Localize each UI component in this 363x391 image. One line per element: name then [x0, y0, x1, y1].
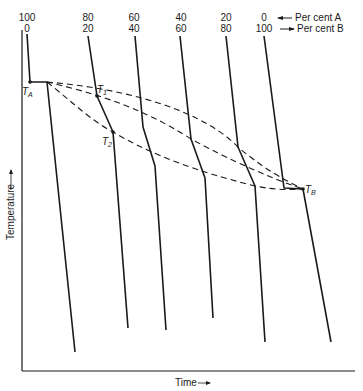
legend-per-cent-b: Per cent B — [297, 23, 344, 34]
comp-a-5: 0 — [261, 12, 267, 23]
cooling-curve-60a — [135, 36, 166, 330]
comp-a-1: 80 — [82, 12, 94, 23]
cooling-curve-20a — [226, 36, 265, 342]
comp-a-4: 20 — [220, 12, 232, 23]
cooling-curve-40a — [180, 36, 213, 318]
comp-b-0: 0 — [24, 23, 30, 34]
x-axis-label-group: Time — [175, 377, 211, 388]
solidus-curve — [47, 82, 303, 190]
label-tb: TB — [305, 184, 316, 196]
liquidus-upper-curve — [47, 82, 303, 189]
cooling-curve-100a — [27, 34, 75, 352]
comp-a-2: 60 — [128, 12, 140, 23]
arrow-head-left-icon — [277, 16, 283, 20]
cooling-curve-80a — [88, 36, 128, 328]
comp-b-3: 60 — [175, 23, 187, 34]
composition-labels: 100 0 80 20 60 40 40 60 20 80 0 100 — [19, 12, 273, 34]
marker-ta — [28, 80, 32, 84]
x-axis-label: Time — [175, 377, 197, 388]
y-axis-label-group: Temperature — [5, 169, 16, 240]
cooling-curves — [27, 34, 331, 352]
comp-b-4: 80 — [220, 23, 232, 34]
comp-b-2: 40 — [128, 23, 140, 34]
label-t2: T2 — [102, 136, 112, 148]
comp-b-1: 20 — [82, 23, 94, 34]
liquidus-curve — [47, 82, 303, 189]
label-t1: T1 — [97, 84, 107, 96]
phase-boundaries — [47, 82, 303, 190]
arrow-head-right-icon — [289, 27, 295, 31]
cooling-curve-diagram: 100 0 80 20 60 40 40 60 20 80 0 100 Per … — [0, 0, 363, 391]
x-axis-arrow-head-icon — [206, 381, 211, 385]
marker-t2 — [111, 130, 115, 134]
legend: Per cent A Per cent B — [277, 12, 344, 34]
label-ta: TA — [22, 86, 33, 98]
comp-b-5: 100 — [256, 23, 273, 34]
legend-per-cent-a: Per cent A — [295, 12, 341, 23]
comp-a-3: 40 — [175, 12, 187, 23]
y-axis-arrow-head-icon — [9, 169, 13, 174]
y-axis-label: Temperature — [5, 183, 16, 240]
comp-a-0: 100 — [19, 12, 36, 23]
